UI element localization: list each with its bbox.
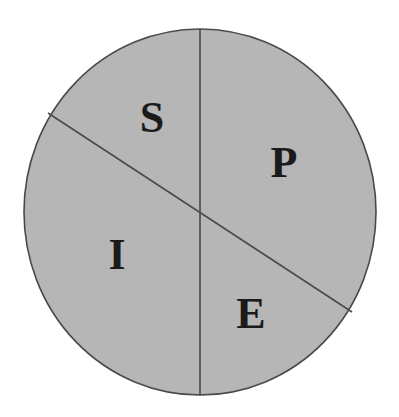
sector-label-s: S <box>140 93 164 142</box>
figure-root: S P I E <box>0 0 399 417</box>
sector-label-e: E <box>236 289 265 338</box>
sector-label-i: I <box>108 230 125 279</box>
circle-diagram-svg: S P I E <box>0 0 399 417</box>
sector-label-p: P <box>271 138 298 187</box>
